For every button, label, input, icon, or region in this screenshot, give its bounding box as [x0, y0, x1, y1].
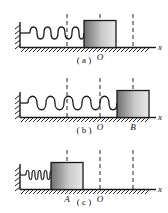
ground-c: [20, 190, 150, 195]
x-axis-label-b: x: [157, 112, 162, 122]
block-c: [51, 163, 83, 190]
panel-caption-b: ( b ): [0, 125, 168, 135]
panel-caption-c: ( c ): [0, 197, 168, 207]
panel-c: x A O ( c ): [0, 142, 168, 210]
x-axis-b: x: [150, 112, 162, 122]
block-a: [84, 21, 116, 48]
spring-b: [20, 96, 117, 110]
physics-figure: x O ( a ): [0, 0, 168, 213]
wall-b: [15, 92, 20, 119]
x-axis-a: x: [150, 42, 162, 52]
x-axis-label-c: x: [157, 184, 162, 194]
panel-caption-a: ( a ): [0, 55, 168, 65]
wall-a: [15, 22, 20, 49]
panel-a: x O ( a ): [0, 0, 168, 68]
wall-c: [15, 164, 20, 191]
x-axis-c: x: [150, 184, 162, 194]
block-b: [117, 91, 149, 118]
panel-b: x O B ( b ): [0, 70, 168, 138]
spring-a: [20, 27, 84, 39]
ground-a: [20, 48, 150, 53]
x-axis-label-a: x: [157, 42, 162, 52]
